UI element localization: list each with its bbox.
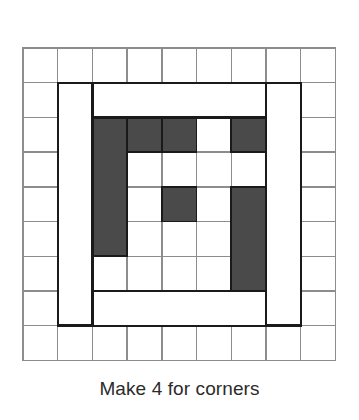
grid-cell <box>301 222 336 257</box>
light-fabric-log-right-log <box>266 83 301 326</box>
quilt-block-figure: Make 4 for corners <box>0 0 359 420</box>
figure-caption: Make 4 for corners <box>0 378 359 400</box>
grid-cell <box>231 326 266 361</box>
grid-cell <box>301 326 336 361</box>
grid-cell <box>197 152 232 187</box>
grid-cell <box>301 117 336 152</box>
grid-cell <box>58 326 93 361</box>
grid-cell <box>23 152 58 187</box>
grid-cell <box>162 256 197 291</box>
grid-cell <box>197 326 232 361</box>
grid-cell <box>23 326 58 361</box>
grid-cell <box>197 256 232 291</box>
grid-cell <box>92 256 127 291</box>
grid-cell <box>197 187 232 222</box>
grid-cell <box>197 48 232 83</box>
grid-cell <box>127 256 162 291</box>
grid-cell <box>162 152 197 187</box>
light-fabric-log-left-log <box>58 83 93 326</box>
dark-fabric-patch <box>92 117 127 256</box>
grid-cell <box>162 222 197 257</box>
grid-cell <box>301 256 336 291</box>
grid-cell <box>23 117 58 152</box>
light-fabric-log-top-log <box>92 83 266 118</box>
grid-cell <box>127 187 162 222</box>
dark-fabric-patch <box>162 117 197 152</box>
grid-cell <box>92 48 127 83</box>
dark-fabric-patch <box>127 117 162 152</box>
grid-cell <box>301 48 336 83</box>
grid-cell <box>23 48 58 83</box>
grid-cell <box>127 222 162 257</box>
grid-cell <box>301 187 336 222</box>
grid-cell <box>231 152 266 187</box>
grid-cell <box>301 83 336 118</box>
grid-cell <box>266 48 301 83</box>
grid-cell <box>231 48 266 83</box>
dark-fabric-patch <box>231 117 266 152</box>
grid-cell <box>162 48 197 83</box>
grid-cell <box>127 48 162 83</box>
grid-cell <box>23 256 58 291</box>
light-fabric-log-bottom-log <box>92 291 266 326</box>
grid-cell <box>266 326 301 361</box>
grid-cell <box>23 291 58 326</box>
grid-cell <box>197 117 232 152</box>
dark-fabric-patch <box>162 187 197 222</box>
grid-cell <box>92 326 127 361</box>
grid-cell <box>301 291 336 326</box>
grid-cell <box>127 152 162 187</box>
grid-cell <box>162 326 197 361</box>
grid-cell <box>23 187 58 222</box>
grid-cell <box>23 83 58 118</box>
grid-cell <box>197 222 232 257</box>
grid-cell <box>301 152 336 187</box>
quilt-block-diagram <box>0 0 359 420</box>
grid-cell <box>23 222 58 257</box>
grid-cell <box>127 326 162 361</box>
grid-cell <box>58 48 93 83</box>
